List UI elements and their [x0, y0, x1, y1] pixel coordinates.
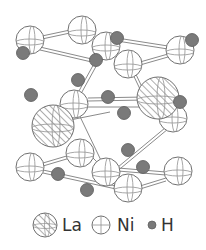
- legend-symbols: [33, 213, 156, 237]
- h-atom: [137, 161, 150, 174]
- ni-atom: [16, 153, 44, 181]
- ni-atom: [68, 16, 96, 44]
- h-atom: [122, 144, 135, 157]
- la-atom: [32, 105, 74, 147]
- ni-atom: [164, 157, 192, 185]
- la-atom: [137, 77, 179, 119]
- ni-atom: [114, 50, 142, 78]
- h-atom: [118, 107, 131, 120]
- h-atom: [111, 32, 124, 45]
- h-atom: [90, 54, 103, 67]
- h-atom: [186, 34, 199, 47]
- ni-legend-icon: [92, 216, 110, 234]
- ni-atom: [114, 174, 142, 202]
- h-atom: [52, 168, 65, 181]
- h-atom: [81, 184, 94, 197]
- h-atom: [174, 96, 187, 109]
- crystal-structure-diagram: [0, 0, 206, 250]
- ni-atom: [66, 139, 94, 167]
- h-atom: [72, 74, 85, 87]
- h-legend-icon: [148, 221, 156, 229]
- h-atom: [17, 47, 30, 60]
- h-atom: [102, 91, 115, 104]
- la-atoms: [32, 77, 179, 147]
- h-atom: [25, 89, 38, 102]
- la-legend-icon: [33, 213, 57, 237]
